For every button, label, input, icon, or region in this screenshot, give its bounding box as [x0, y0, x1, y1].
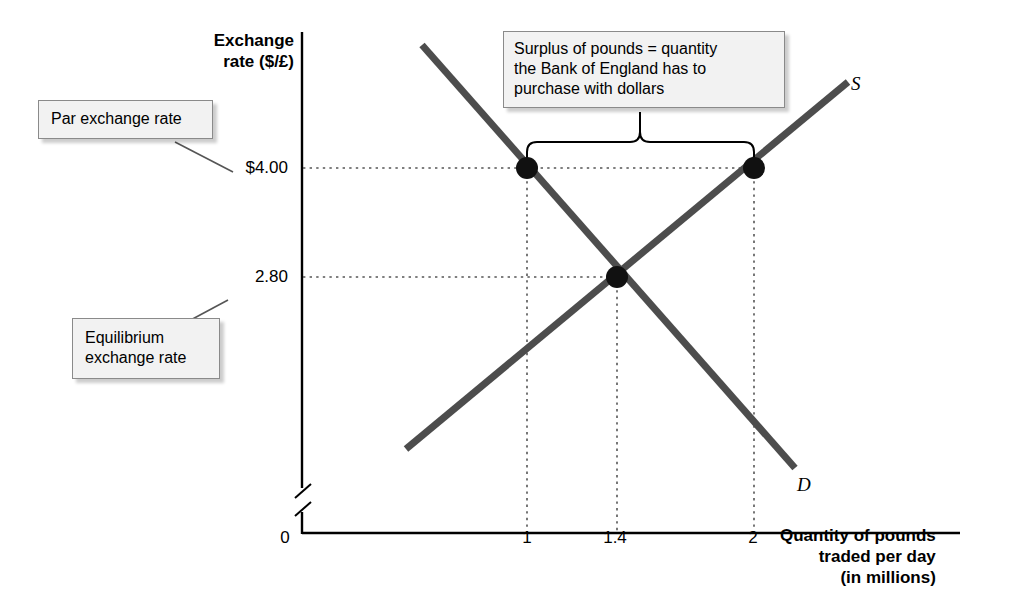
x-tick-label-2: 2 — [723, 528, 783, 548]
y-tick-label-280: 2.80 — [255, 267, 288, 287]
data-point-markers — [516, 157, 765, 288]
y-tick-label-400: $4.00 — [245, 158, 288, 178]
surplus-brace — [527, 112, 754, 166]
supply-curve-label: S — [851, 73, 861, 95]
marker-supply-at-par — [743, 157, 765, 179]
par-exchange-rate-callout-box: Par exchange rate — [38, 100, 213, 139]
x-tick-label-0: 0 — [255, 528, 315, 548]
equilibrium-exchange-rate-callout-box: Equilibrium exchange rate — [72, 318, 220, 379]
y-axis-title: Exchange rate ($/£) — [214, 30, 294, 72]
marker-demand-at-par — [516, 157, 538, 179]
marker-equilibrium — [606, 266, 628, 288]
leader-line-par — [175, 142, 233, 172]
x-axis-title: Quantity of pounds traded per day (in mi… — [780, 525, 936, 588]
x-tick-label-1-4: 1.4 — [585, 528, 645, 548]
demand-curve-label: D — [797, 474, 811, 496]
x-tick-label-1: 1 — [497, 528, 557, 548]
callout-leader-lines — [172, 142, 233, 330]
surplus-callout-box: Surplus of pounds = quantity the Bank of… — [503, 31, 785, 108]
supply-curve — [406, 82, 848, 449]
exchange-rate-supply-demand-figure: Exchange rate ($/£) Quantity of pounds t… — [0, 0, 1011, 608]
demand-curve — [422, 45, 795, 468]
